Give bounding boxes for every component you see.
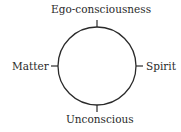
label-matter: Matter — [12, 61, 49, 72]
label-spirit: Spirit — [146, 61, 176, 72]
label-ego-consciousness: Ego-consciousness — [51, 4, 151, 15]
central-circle — [58, 27, 136, 105]
label-unconscious: Unconscious — [66, 114, 134, 125]
